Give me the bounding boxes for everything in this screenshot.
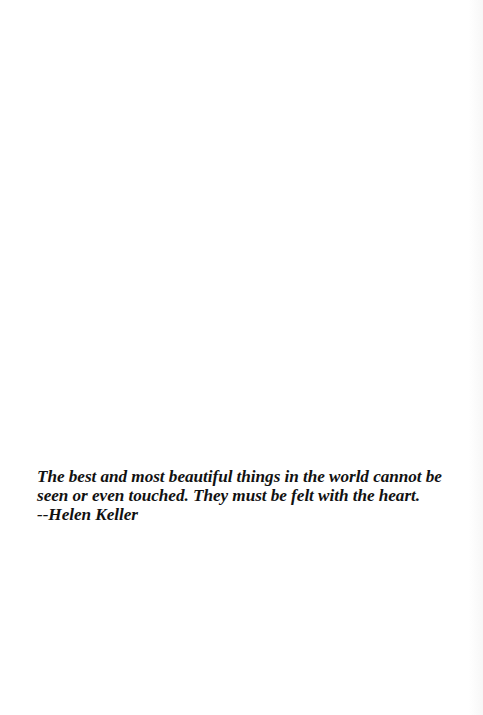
quote-line-2: seen or even touched. They must be felt … (37, 486, 467, 505)
quote-line-1: The best and most beautiful things in th… (37, 467, 467, 486)
document-page: The best and most beautiful things in th… (0, 0, 483, 715)
quote-block: The best and most beautiful things in th… (37, 467, 467, 524)
quote-attribution: --Helen Keller (37, 505, 467, 524)
